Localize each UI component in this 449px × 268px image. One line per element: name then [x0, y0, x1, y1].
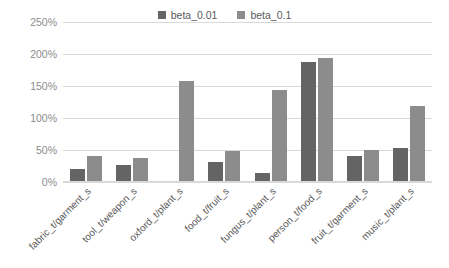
- chart-legend: beta_0.01 beta_0.1: [0, 10, 449, 21]
- y-axis-tick-label: 150%: [0, 80, 57, 92]
- bar[interactable]: [272, 90, 287, 182]
- bar[interactable]: [318, 58, 333, 182]
- legend-swatch-beta-0-1: [237, 11, 245, 19]
- bar-group: [294, 22, 340, 182]
- plot-area: [63, 22, 432, 182]
- bar[interactable]: [133, 158, 148, 182]
- bar[interactable]: [87, 156, 102, 182]
- y-axis-tick-label: 50%: [0, 144, 57, 156]
- bar[interactable]: [393, 148, 408, 182]
- y-axis-tick-label: 200%: [0, 48, 57, 60]
- bar-group: [386, 22, 432, 182]
- x-axis-line: [63, 181, 432, 182]
- bar[interactable]: [301, 62, 316, 182]
- bar[interactable]: [208, 162, 223, 182]
- bar-group: [340, 22, 386, 182]
- legend-swatch-beta-0-01: [158, 11, 166, 19]
- x-axis-label-slot: music_t/plant_s: [386, 184, 432, 264]
- bar[interactable]: [225, 151, 240, 182]
- x-axis-tick-label: fabric_t/garment_s: [27, 186, 93, 252]
- y-axis-tick-label: 100%: [0, 112, 57, 124]
- bar[interactable]: [364, 150, 379, 182]
- bar-group: [63, 22, 109, 182]
- legend-label-beta-0-01: beta_0.01: [171, 10, 218, 21]
- bar-group: [109, 22, 155, 182]
- bar-group: [248, 22, 294, 182]
- bar-groups: [63, 22, 432, 182]
- legend-item-beta-0-01: beta_0.01: [158, 10, 218, 21]
- bar[interactable]: [70, 169, 85, 182]
- bar-chart: beta_0.01 beta_0.1 250%200%150%100%50%0%…: [0, 0, 449, 268]
- gridline: [63, 182, 432, 183]
- bar-group: [201, 22, 247, 182]
- bar[interactable]: [410, 106, 425, 182]
- bar[interactable]: [347, 156, 362, 182]
- bar[interactable]: [179, 81, 194, 182]
- legend-item-beta-0-1: beta_0.1: [237, 10, 291, 21]
- legend-label-beta-0-1: beta_0.1: [250, 10, 291, 21]
- bar[interactable]: [116, 165, 131, 182]
- bar-group: [155, 22, 201, 182]
- y-axis-tick-label: 0%: [0, 176, 57, 188]
- y-axis-tick-label: 250%: [0, 16, 57, 28]
- x-axis-labels: fabric_t/garment_stool_t/weapon_soxford_…: [63, 184, 432, 264]
